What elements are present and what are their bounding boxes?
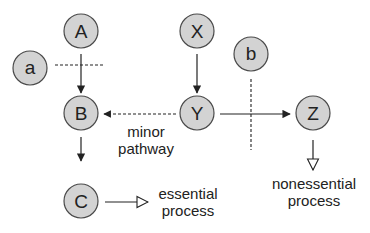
pathway-diagram: A a B C X b Y Z minor pathway essential … bbox=[0, 0, 370, 233]
nonessential-process-label-line2: process bbox=[288, 192, 341, 209]
minor-pathway-label-line1: minor bbox=[127, 123, 165, 140]
svg-text:A: A bbox=[75, 21, 88, 42]
nonessential-process-label-line1: nonessential bbox=[272, 175, 356, 192]
svg-text:C: C bbox=[74, 191, 88, 212]
minor-pathway-label-line2: pathway bbox=[118, 140, 174, 157]
svg-text:a: a bbox=[25, 57, 36, 78]
svg-text:X: X bbox=[191, 21, 204, 42]
svg-text:b: b bbox=[246, 43, 257, 64]
svg-text:Y: Y bbox=[191, 103, 204, 124]
essential-process-label-line1: essential bbox=[158, 185, 217, 202]
node-X: X bbox=[180, 14, 214, 48]
node-C: C bbox=[64, 184, 98, 218]
svg-text:Z: Z bbox=[307, 103, 319, 124]
svg-text:B: B bbox=[75, 103, 88, 124]
essential-process-label-line2: process bbox=[162, 202, 215, 219]
node-a: a bbox=[13, 51, 47, 85]
node-Y: Y bbox=[180, 96, 214, 130]
node-B: B bbox=[64, 96, 98, 130]
node-A: A bbox=[64, 14, 98, 48]
node-b: b bbox=[234, 37, 268, 71]
node-Z: Z bbox=[296, 96, 330, 130]
